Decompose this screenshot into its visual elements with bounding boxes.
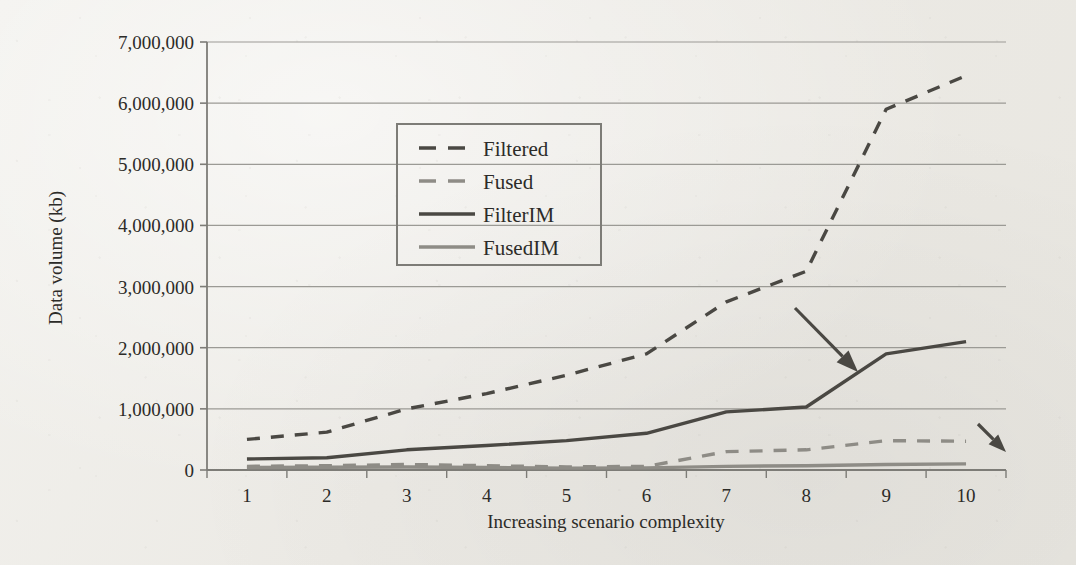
y-tick-label: 3,000,000 [118,277,194,298]
x-tick-label: 1 [242,485,252,506]
x-tick-label: 10 [957,485,976,506]
y-tick-label: 1,000,000 [118,399,194,420]
x-tick-label: 5 [562,485,572,506]
legend-label-filtered: Filtered [483,137,549,161]
x-tick-label: 8 [802,485,812,506]
y-tick-label: 2,000,000 [118,338,194,359]
series-line-filterim [247,342,966,459]
y-tick-label: 4,000,000 [118,215,194,236]
x-tick-label: 3 [402,485,412,506]
legend-label-fusedim: FusedIM [483,236,559,260]
gridlines-group [207,42,1006,470]
legend-label-fused: Fused [483,170,534,194]
y-tick-label: 0 [185,460,195,481]
chart-figure: 01,000,0002,000,0003,000,0004,000,0005,0… [0,0,1076,565]
series-line-filtered [247,76,966,440]
x-tick-labels-group: 12345678910 [242,485,975,506]
x-tick-label: 2 [322,485,332,506]
x-tick-label: 7 [722,485,732,506]
y-tick-label: 6,000,000 [118,93,194,114]
annotations-group [795,308,1006,452]
axes-group [207,42,1006,470]
x-tick-label: 9 [881,485,891,506]
arrow-to-filterim-shaft [795,308,843,356]
y-tick-label: 7,000,000 [118,32,194,53]
legend-label-filterim: FilterIM [483,203,554,227]
y-tick-label: 5,000,000 [118,154,194,175]
arrow-to-fused-shaft [978,424,993,439]
y-axis-title: Data volume (kb) [45,191,67,325]
x-axis-title: Increasing scenario complexity [487,511,725,532]
x-tick-label: 6 [642,485,652,506]
x-tick-label: 4 [482,485,492,506]
x-tick-marks-group [207,470,1006,478]
chart-canvas: 01,000,0002,000,0003,000,0004,000,0005,0… [0,0,1076,565]
legend: FilteredFusedFilterIMFusedIM [397,124,601,265]
y-tick-labels-group: 01,000,0002,000,0003,000,0004,000,0005,0… [118,32,207,481]
